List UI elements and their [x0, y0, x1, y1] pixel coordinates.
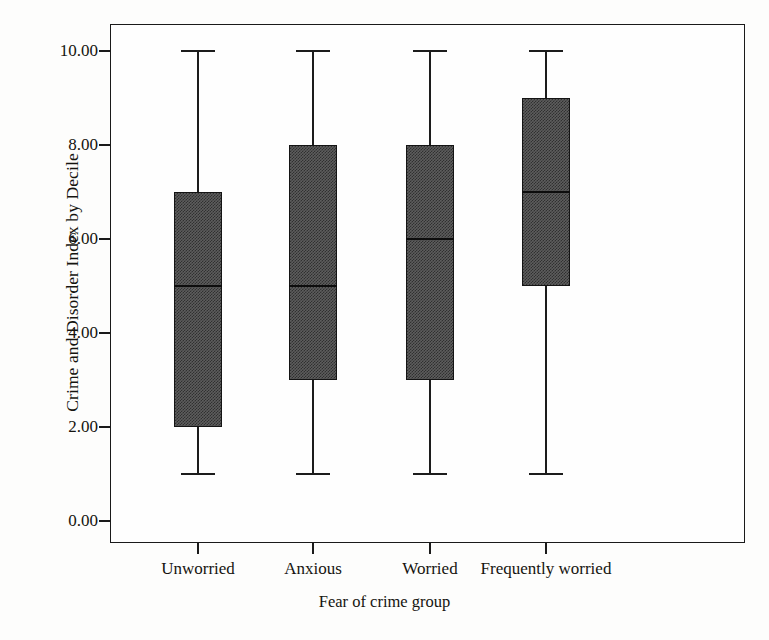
lower-whisker-line [545, 286, 547, 474]
y-axis-ticks: 0.002.004.006.008.0010.00 [0, 0, 98, 640]
y-tick-mark [99, 332, 110, 334]
lower-whisker-cap [296, 473, 330, 475]
median-line [522, 191, 570, 194]
iqr-box [174, 192, 222, 427]
x-tick-mark [429, 543, 431, 554]
y-tick-label: 8.00 [0, 136, 98, 153]
lower-whisker-line [429, 380, 431, 474]
median-line [406, 238, 454, 241]
iqr-box [406, 145, 454, 380]
upper-whisker-cap [529, 50, 563, 52]
y-tick-label: 4.00 [0, 324, 98, 341]
upper-whisker-line [429, 51, 431, 145]
x-tick-label-unworried: Unworried [161, 559, 235, 579]
upper-whisker-line [197, 51, 199, 192]
x-tick-mark [312, 543, 314, 554]
y-tick-label: 10.00 [0, 42, 98, 59]
boxplot-figure: Crime and Disorder Index by Decile 0.002… [0, 0, 769, 640]
lower-whisker-line [312, 380, 314, 474]
lower-whisker-cap [413, 473, 447, 475]
median-line [289, 285, 337, 288]
y-tick-mark [99, 144, 110, 146]
upper-whisker-line [312, 51, 314, 145]
x-tick-label-worried: Worried [402, 559, 457, 579]
lower-whisker-cap [181, 473, 215, 475]
lower-whisker-line [197, 427, 199, 474]
y-tick-label: 6.00 [0, 230, 98, 247]
upper-whisker-line [545, 51, 547, 98]
x-axis-title: Fear of crime group [0, 592, 769, 612]
iqr-box [289, 145, 337, 380]
y-tick-mark [99, 50, 110, 52]
median-line [174, 285, 222, 288]
y-tick-label: 0.00 [0, 512, 98, 529]
x-tick-label-frequently-worried: Frequently worried [481, 559, 612, 579]
lower-whisker-cap [529, 473, 563, 475]
upper-whisker-cap [181, 50, 215, 52]
upper-whisker-cap [413, 50, 447, 52]
upper-whisker-cap [296, 50, 330, 52]
x-tick-mark [197, 543, 199, 554]
x-tick-mark [545, 543, 547, 554]
y-tick-mark [99, 238, 110, 240]
y-tick-mark [99, 426, 110, 428]
x-tick-label-anxious: Anxious [284, 559, 342, 579]
y-tick-label: 2.00 [0, 418, 98, 435]
y-tick-mark [99, 520, 110, 522]
